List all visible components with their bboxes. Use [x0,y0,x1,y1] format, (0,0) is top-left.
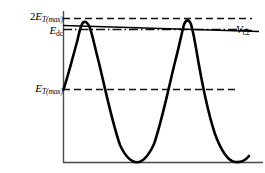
axis-label-vc2: Vc2 [236,24,250,36]
axis-label-vc2-symbol: V [236,23,243,35]
axis-label-2etmax-symbol: E [35,10,42,22]
axis-label-etmax-symbol: E [35,82,42,94]
axis-label-2etmax-sub: T(max) [42,15,63,24]
axis-label-edc-sub: dc [56,29,63,38]
axis-label-vc2-sub: c2 [243,28,250,37]
waveform-figure: 2ET(max) Edc ET(max) Vc2 [0,0,265,173]
axis-label-etmax-sub: T(max) [42,87,63,96]
axis-label-edc: Edc [49,25,63,37]
axis-label-2etmax: 2ET(max) [30,11,63,23]
axis-label-etmax: ET(max) [35,83,63,95]
